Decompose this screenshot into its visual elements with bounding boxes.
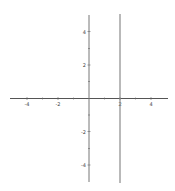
y-tick-label: -4: [81, 162, 86, 168]
y-tick-label: -2: [81, 129, 86, 135]
plot-canvas: -4 -2 2 4 4 2 -2 -4: [0, 0, 175, 191]
y-tick-label: 2: [83, 62, 86, 68]
x-tick-label: 4: [149, 101, 152, 107]
y-tick-label: 4: [83, 29, 86, 35]
x-tick-label: -2: [56, 101, 61, 107]
x-tick-label: -4: [25, 101, 30, 107]
